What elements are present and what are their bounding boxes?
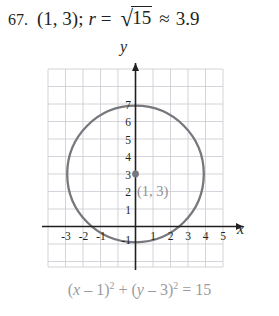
center-point-label: (1, 3): [137, 183, 168, 200]
caption-equals-value: = 15: [178, 281, 211, 298]
caption-lhs-rest: – 1): [80, 281, 109, 298]
y-tick-label: 2: [116, 187, 131, 199]
y-tick-label: 1: [116, 205, 131, 217]
y-tick-label: 3: [116, 170, 131, 182]
problem-number: 67.: [8, 11, 28, 29]
square-root-expression: √15: [121, 6, 153, 30]
caption-rhs-rest: – 3): [144, 281, 173, 298]
equals-sign: =: [101, 8, 112, 30]
center-point-marker: [132, 171, 139, 178]
caption-plus: +: [114, 281, 131, 298]
graph-panel: y x: [0, 38, 279, 278]
y-tick-label: 7: [116, 100, 131, 112]
answer-heading: 67. (1, 3) ; r = √15 ≈ 3.9: [8, 6, 273, 34]
y-tick-label: 4: [116, 152, 131, 164]
radius-approx-value: 3.9: [176, 8, 200, 30]
y-tick-label: 6: [116, 117, 131, 129]
y-tick-label: -1: [116, 235, 131, 247]
x-tick-label: 1: [147, 231, 159, 243]
x-tick-label: 3: [182, 231, 194, 243]
answer-separator: ;: [78, 8, 83, 30]
x-tick-label: -3: [60, 231, 72, 243]
coordinate-plane: [0, 38, 279, 278]
caption-rhs-variable: y: [137, 281, 144, 298]
y-tick-label: 5: [116, 135, 131, 147]
x-tick-label: -1: [95, 231, 107, 243]
radius-variable: r: [88, 8, 95, 30]
answer-center-point: (1, 3): [37, 8, 78, 30]
approximately-equal-sign: ≈: [159, 8, 169, 30]
x-tick-label: -2: [78, 231, 90, 243]
x-tick-label: 2: [165, 231, 177, 243]
radicand-value: 15: [131, 6, 152, 28]
y-axis: [132, 63, 139, 270]
equation-caption: (x – 1)2 + (y – 3)2 = 15: [0, 280, 279, 299]
x-axis: [42, 223, 243, 230]
x-tick-label: 5: [217, 231, 229, 243]
x-tick-label: 4: [200, 231, 212, 243]
